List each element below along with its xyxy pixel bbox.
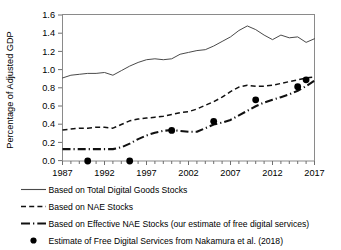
chart-figure: Percentage of Adjusted GDP 1.6 1.4 1.2 1… (0, 0, 341, 250)
chart-legend: Based on Total Digital Goods Stocks Base… (21, 185, 309, 246)
scatter-point (252, 96, 259, 103)
scatter-point (84, 158, 91, 165)
y-tick-label: 1.2 (42, 47, 55, 57)
x-tick-label: 1997 (136, 168, 156, 178)
legend-item-label: Based on Effective NAE Stocks (our estim… (49, 219, 310, 229)
series-line-effective-nae-stocks (63, 81, 315, 149)
y-axis-title: Percentage of Adjusted GDP (5, 31, 15, 148)
legend-item-effective-nae-stocks: Based on Effective NAE Stocks (our estim… (21, 219, 309, 229)
scatter-points-nakamura (84, 76, 309, 164)
y-tick-marks (58, 15, 62, 161)
y-tick-label: 0.2 (42, 138, 55, 148)
legend-item-label: Based on Total Digital Goods Stocks (49, 185, 188, 195)
scatter-point (294, 83, 301, 90)
y-tick-label: 0.0 (42, 156, 55, 166)
legend-item-nae-stocks: Based on NAE Stocks (21, 202, 133, 212)
series-line-total-digital-goods-stocks (63, 26, 315, 78)
scatter-point (168, 127, 175, 134)
plot-frame (63, 15, 315, 162)
y-tick-label: 1.6 (42, 10, 55, 20)
legend-dot-marker-icon (30, 237, 36, 243)
y-tick-label: 0.8 (42, 83, 55, 93)
x-tick-label: 1987 (52, 168, 72, 178)
x-tick-labels: 1987 1992 1997 2002 2007 2012 2017 (52, 168, 324, 178)
x-tick-label: 1992 (94, 168, 114, 178)
scatter-point (303, 76, 310, 83)
scatter-point (210, 118, 217, 125)
data-series-group (63, 26, 315, 164)
scatter-point (126, 158, 133, 165)
legend-item-label: Based on NAE Stocks (49, 202, 134, 212)
y-tick-label: 1.4 (42, 28, 55, 38)
y-tick-label: 1.0 (42, 65, 55, 75)
legend-item-label: Estimate of Free Digital Services from N… (49, 236, 284, 246)
y-tick-label: 0.4 (42, 119, 55, 129)
legend-item-nakamura-estimate: Estimate of Free Digital Services from N… (30, 236, 283, 246)
x-minor-ticks (63, 161, 315, 165)
y-tick-label: 0.6 (42, 101, 55, 111)
x-tick-label: 2002 (178, 168, 198, 178)
chart-canvas: Percentage of Adjusted GDP 1.6 1.4 1.2 1… (0, 0, 341, 250)
x-tick-label: 2007 (220, 168, 240, 178)
series-line-nae-stocks (63, 77, 315, 130)
y-tick-labels: 1.6 1.4 1.2 1.0 0.8 0.6 0.4 0.2 0.0 (42, 10, 55, 166)
legend-item-total-digital-goods-stocks: Based on Total Digital Goods Stocks (21, 185, 187, 195)
x-tick-label: 2017 (304, 168, 324, 178)
x-tick-label: 2012 (262, 168, 282, 178)
